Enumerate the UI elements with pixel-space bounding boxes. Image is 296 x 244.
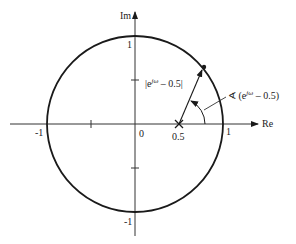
- tick-label-origin: 0: [139, 128, 144, 139]
- tick-label-imag-one: 1: [127, 39, 132, 50]
- tick-label-real-neg-one: -1: [35, 127, 43, 138]
- imag-axis-label: Im: [120, 10, 131, 21]
- angle-label: ∢ (ejω – 0.5): [228, 89, 279, 102]
- real-axis-label: Re: [262, 118, 274, 129]
- tick-label-real-half: 0.5: [172, 131, 185, 142]
- magnitude-label: |ejω – 0.5|: [145, 77, 183, 89]
- angle-arc: [191, 101, 205, 124]
- angle-leader-line: [204, 97, 226, 110]
- tick-label-imag-neg-one: -1: [124, 216, 132, 227]
- complex-plane-diagram: Im Re 1 -1 0 0.5 1 -1 |ejω – 0.5| ∢ (ejω…: [0, 0, 296, 244]
- tick-label-real-one: 1: [226, 126, 231, 137]
- point-on-circle: [202, 65, 206, 69]
